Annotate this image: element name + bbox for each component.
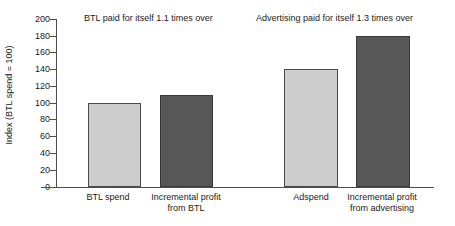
bar-incremental-profit-btl [160,95,213,187]
y-tick-label-160: 160 [24,48,50,57]
plot-area [56,19,430,187]
y-tick-label-20: 20 [24,166,50,175]
annotation-advertising: Advertising paid for itself 1.3 times ov… [256,13,413,24]
annotation-btl: BTL paid for itself 1.1 times over [84,13,213,24]
x-axis-line [41,187,434,188]
bar-adspend [284,69,338,187]
bar-incremental-profit-advertising [356,36,410,187]
y-tick-label-60: 60 [24,132,50,141]
y-axis-title: Index (BTL spend = 100) [2,0,16,190]
bar-chart: Index (BTL spend = 100) 0 20 40 60 80 10… [0,0,455,226]
x-category-label-incremental-profit-btl: Incremental profit from BTL [138,192,234,214]
y-tick-label-100: 100 [24,99,50,108]
y-tick-label-80: 80 [24,115,50,124]
y-tick-label-180: 180 [24,32,50,41]
y-tick-label-120: 120 [24,82,50,91]
bar-btl-spend [88,103,141,187]
y-tick-label-40: 40 [24,149,50,158]
x-category-label-incremental-profit-advertising: Incremental profit from advertising [326,192,438,214]
y-tick-label-200: 200 [24,15,50,24]
y-tick-label-140: 140 [24,65,50,74]
